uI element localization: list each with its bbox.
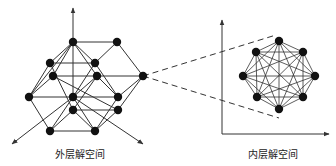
lattice-edge	[118, 76, 143, 97]
lattice-edge	[53, 42, 73, 76]
lattice-edge	[95, 63, 118, 97]
lattice-edge	[29, 63, 50, 97]
graph-node	[253, 93, 261, 101]
lattice-node	[69, 106, 77, 114]
lattice-node	[46, 127, 54, 135]
complete-graph-edge	[256, 52, 279, 109]
lattice-edge	[29, 76, 53, 97]
graph-node	[311, 72, 319, 80]
graph-node	[299, 48, 307, 56]
lattice-node	[93, 72, 101, 80]
graph-node	[252, 48, 260, 56]
graph-node	[299, 93, 307, 101]
lattice-node	[91, 59, 99, 67]
lattice-edge	[118, 76, 143, 110]
lattice-edge	[29, 42, 73, 97]
lattice-edge	[73, 97, 95, 131]
lattice-edge	[50, 42, 73, 63]
lattice-node	[113, 38, 121, 46]
axis-arrow	[12, 97, 73, 144]
graph-node	[239, 72, 247, 80]
lattice-node	[114, 93, 122, 101]
lattice-edge	[95, 42, 117, 63]
dashed-zoom-connectors	[143, 35, 279, 118]
lattice-edge	[97, 76, 118, 97]
solution-space-diagram: 外层解空间 内层解空间	[0, 0, 336, 166]
graph-node	[275, 105, 283, 113]
lattice-node	[114, 106, 122, 114]
lattice-edge	[73, 42, 95, 63]
lattice-node	[139, 72, 147, 80]
diagram-canvas	[0, 0, 336, 166]
lattice-edge	[50, 97, 73, 131]
lattice-node	[46, 59, 54, 67]
graph-node	[275, 37, 283, 45]
lattice-edge	[117, 42, 143, 76]
complete-graph-edge	[243, 41, 279, 76]
complete-graph-edge	[257, 76, 315, 97]
lattice-edge	[73, 42, 97, 76]
lattice-node	[91, 127, 99, 135]
complete-graph-edge	[279, 76, 315, 109]
lattice-edge	[29, 97, 50, 131]
lattice-node	[49, 72, 57, 80]
lattice-node	[69, 38, 77, 46]
complete-graph-edge	[279, 41, 303, 97]
lattice-node	[69, 93, 77, 101]
lattice-node	[25, 93, 33, 101]
inner-space-label: 内层解空间	[248, 146, 298, 161]
outer-space-label: 外层解空间	[55, 146, 105, 161]
complete-graph-edge	[256, 52, 257, 97]
